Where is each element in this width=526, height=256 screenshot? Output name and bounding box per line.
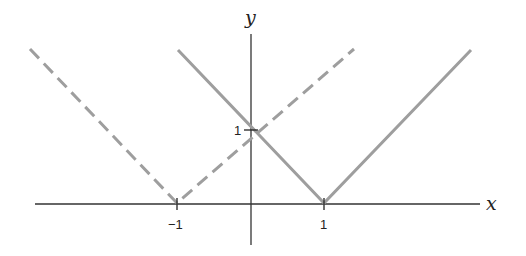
y-axis-label: y (244, 6, 256, 28)
chart-canvas: y x −1 1 1 (0, 0, 526, 256)
series-dashed-abs-x-plus-1 (30, 49, 354, 203)
x-tick-label-pos1: 1 (320, 217, 327, 232)
y-tick-label-1: 1 (234, 123, 241, 138)
x-axis-label: x (486, 192, 497, 214)
x-tick-label-neg1: −1 (168, 217, 183, 232)
